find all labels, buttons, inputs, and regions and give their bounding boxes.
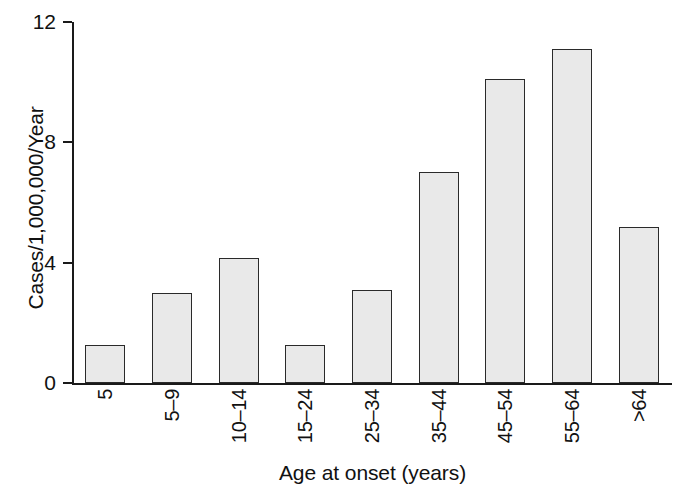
bar [152,293,192,383]
bar [619,227,659,383]
bar [285,345,325,383]
x-axis-tick-label: 5 [94,389,117,400]
bar-series [72,22,672,383]
x-axis-tick-label-slot: 35–44 [405,385,472,460]
bar-chart-figure: Cases/1,000,000/Year 04812 55–910–1415–2… [0,0,679,498]
x-axis-tick-label-slot: 15–24 [272,385,339,460]
y-axis-title: Cases/1,000,000/Year [24,18,48,398]
x-axis-tick-label: 10–14 [227,389,250,443]
x-axis-tick-label: 15–24 [294,389,317,443]
bar [485,79,525,383]
x-axis-tick-label-slot: >64 [605,385,672,460]
x-axis-tick-label: 5–9 [160,389,183,421]
y-axis-tick: 8 [63,141,72,143]
y-axis-tick: 4 [63,262,72,264]
x-axis-tick-label: 25–34 [360,389,383,443]
x-axis-tick-label: 55–64 [560,389,583,443]
x-axis-title: Age at onset (years) [0,461,679,485]
x-axis-tick-label-slot: 10–14 [205,385,272,460]
x-axis-tick-label-slot: 25–34 [339,385,406,460]
y-axis-tick-label: 4 [44,251,56,275]
x-axis-tick-label: 45–54 [494,389,517,443]
x-axis-tick-label: 35–44 [427,389,450,443]
x-axis-tick-label-slot: 45–54 [472,385,539,460]
bar [419,172,459,383]
x-axis-tick-label: >64 [627,389,650,422]
bar [352,290,392,383]
y-axis-tick: 12 [63,21,72,23]
bar [552,49,592,383]
bar [85,345,125,383]
bar [219,258,259,383]
plot-area: 04812 [72,22,672,383]
y-axis-tick-label: 0 [44,371,56,395]
x-axis-tick-label-slot: 5 [72,385,139,460]
y-axis-tick-label: 8 [44,130,56,154]
y-axis-tick-label: 12 [33,10,56,34]
y-axis-tick: 0 [63,382,72,384]
x-axis-tick-label-slot: 5–9 [139,385,206,460]
x-axis-tick-label-slot: 55–64 [539,385,606,460]
x-axis-tick-labels: 55–910–1415–2425–3435–4445–5455–64>64 [72,385,672,460]
